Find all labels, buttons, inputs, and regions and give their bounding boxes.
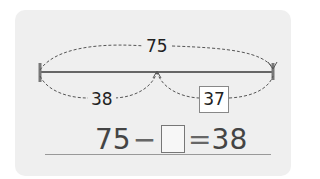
writing-rule-line bbox=[45, 154, 271, 155]
minus-sign: − bbox=[133, 123, 156, 156]
total-label: 75 bbox=[143, 38, 171, 55]
answer-blank-box[interactable] bbox=[161, 125, 185, 153]
minuend: 75 bbox=[95, 123, 131, 156]
equation: 75 − = 38 bbox=[95, 122, 247, 156]
left-segment-label: 38 bbox=[88, 91, 116, 108]
equals-sign: = bbox=[188, 123, 211, 156]
right-segment-answer-box: 37 bbox=[199, 86, 229, 113]
result: 38 bbox=[212, 123, 248, 156]
